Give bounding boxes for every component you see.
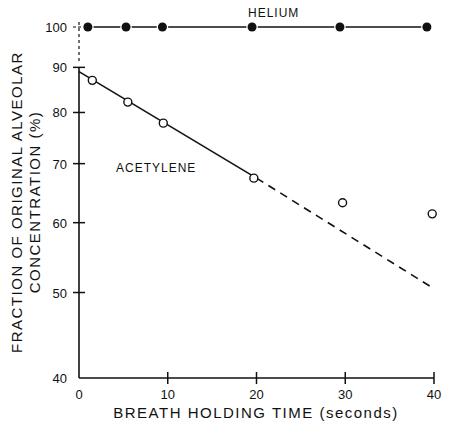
helium-point-dot [122, 23, 131, 32]
helium-label: HELIUM [248, 6, 299, 20]
markers [83, 22, 436, 218]
helium-point-dot [83, 23, 92, 32]
y-tick-label: 90 [53, 60, 67, 75]
helium-point-dot [158, 23, 167, 32]
y-tick-label: 60 [53, 216, 67, 231]
ticks: 010203040405060708090100 [45, 20, 441, 402]
helium-point-dot [335, 23, 344, 32]
acetylene-point [159, 119, 167, 127]
acetylene-point [88, 76, 96, 84]
acetylene-point [339, 199, 347, 207]
x-tick-label: 20 [249, 387, 263, 402]
acetylene-point [124, 98, 132, 106]
y-tick-label: 100 [45, 20, 67, 35]
y-tick-label: 40 [53, 371, 67, 386]
axes [79, 22, 434, 378]
x-tick-label: 10 [161, 387, 175, 402]
series-lines [79, 27, 434, 289]
x-axis-title: BREATH HOLDING TIME (seconds) [113, 404, 399, 421]
x-tick-label: 0 [75, 387, 82, 402]
acetylene-fit-dashed [257, 178, 435, 289]
chart: 010203040405060708090100 BREATH HOLDING … [0, 0, 449, 427]
y-tick-label: 50 [53, 286, 67, 301]
helium-point-dot [248, 23, 257, 32]
y-tick-label: 70 [53, 157, 67, 172]
x-tick-label: 30 [338, 387, 352, 402]
acetylene-point [250, 174, 258, 182]
y-axis-title-line1: FRACTION OF ORIGINAL ALVEOLAR [8, 51, 25, 353]
acetylene-label: ACETYLENE [116, 161, 196, 175]
y-tick-label: 80 [53, 105, 67, 120]
x-tick-label: 40 [427, 387, 441, 402]
helium-point-dot [422, 23, 431, 32]
acetylene-point [428, 210, 436, 218]
y-axis-title-line2: CONCENTRATION (%) [26, 111, 43, 294]
